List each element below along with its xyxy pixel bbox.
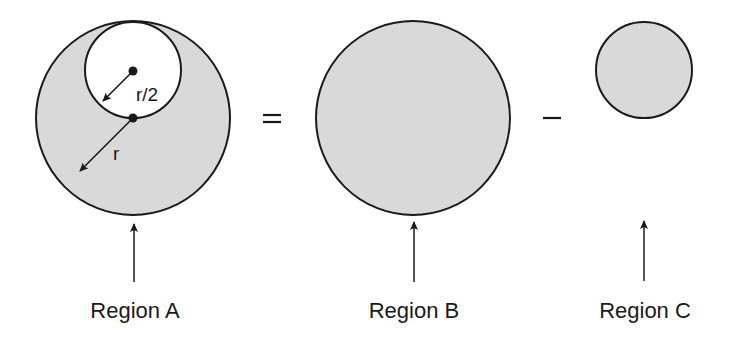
region-c-label: Region C <box>599 298 691 323</box>
outer-radius-label: r <box>113 143 120 164</box>
region-a-figure: r/2 r <box>36 21 230 215</box>
region-diagram: r/2 r Region A Region B Region C <box>0 0 738 341</box>
equals-sign <box>263 115 281 122</box>
region-b-label: Region B <box>369 298 460 323</box>
region-a-label: Region A <box>90 298 180 323</box>
region-c-circle <box>596 22 692 118</box>
inner-radius-label: r/2 <box>136 84 158 105</box>
region-b-circle <box>316 21 510 215</box>
